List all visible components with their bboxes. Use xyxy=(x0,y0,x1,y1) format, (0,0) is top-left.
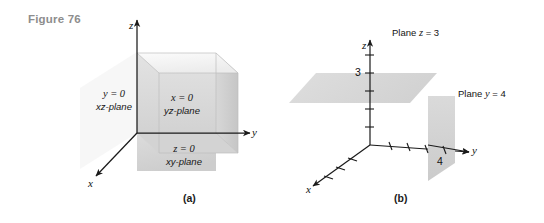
yz-plane-equation: x = 0 xyxy=(171,92,193,103)
panel-b-y-axis-label: y xyxy=(472,144,477,156)
xy-plane-name: xy-plane xyxy=(166,156,202,167)
plane-y4-render xyxy=(428,96,455,181)
plane-z3-prefix: Plane xyxy=(392,27,419,38)
panel-b-x-axis xyxy=(313,145,370,186)
panel-b-z-axis-label: z xyxy=(362,39,366,51)
plane-y4-suffix: = 4 xyxy=(490,88,506,99)
figure-graphics xyxy=(0,0,544,223)
panel-a-z-axis-label: z xyxy=(129,19,133,31)
plane-z-equals-3 xyxy=(289,73,437,103)
z-tick-label-3: 3 xyxy=(355,66,361,78)
y-tick-label-4: 4 xyxy=(437,155,443,167)
panel-a-caption: (a) xyxy=(183,192,196,204)
plane-y4-callout: Plane y = 4 xyxy=(458,88,506,99)
xz-plane-label: y = 0 xz-plane xyxy=(84,88,144,112)
xy-plane-label: z = 0 xy-plane xyxy=(154,143,214,167)
panel-b-caption: (b) xyxy=(394,192,407,204)
yz-plane-label: x = 0 yz-plane xyxy=(152,92,212,116)
plane-z3-suffix: = 3 xyxy=(423,27,439,38)
panel-a-x-axis-label: x xyxy=(88,177,93,189)
panel-b-x-ticks xyxy=(324,158,357,179)
xz-plane-equation: y = 0 xyxy=(103,88,125,99)
yz-plane-name: yz-plane xyxy=(164,105,200,116)
panel-b-x-axis-label: x xyxy=(306,183,311,195)
xy-plane-equation: z = 0 xyxy=(173,143,195,154)
plane-z3-callout: Plane z = 3 xyxy=(392,27,439,38)
figure-number-label: Figure 76 xyxy=(28,13,81,25)
panel-a-y-axis-label: y xyxy=(252,126,257,138)
plane-y4-prefix: Plane xyxy=(458,88,485,99)
figure-container: Figure 76 z y x y = 0 xz-plane x = 0 yz-… xyxy=(0,0,544,223)
xz-plane-name: xz-plane xyxy=(96,101,132,112)
